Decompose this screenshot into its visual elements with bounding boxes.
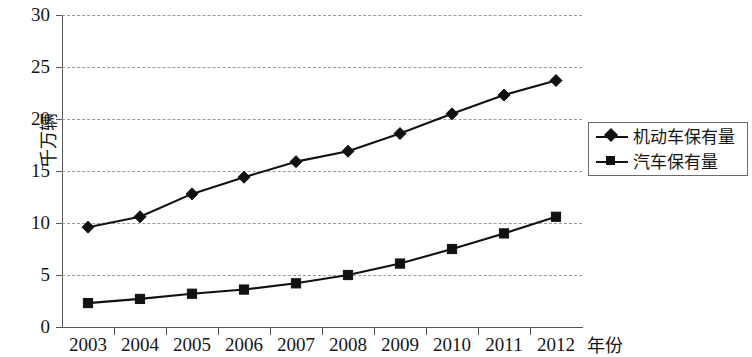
series-layer [0,0,752,357]
data-point-marker [342,145,354,157]
data-point-marker [238,171,250,183]
square-marker-icon [595,152,629,172]
data-point-marker [135,294,144,303]
data-point-marker [447,244,456,253]
legend-item-cars[interactable]: 汽车保有量 [595,149,718,175]
series-line [88,217,556,303]
series-1 [82,75,562,234]
data-point-marker [394,128,406,140]
legend-item-label: 汽车保有量 [629,152,718,172]
series-2 [83,212,560,308]
data-point-marker [134,211,146,223]
data-point-marker [343,270,352,279]
data-point-marker [499,229,508,238]
data-point-marker [186,188,198,200]
data-point-marker [551,212,560,221]
legend-item-motor-vehicles[interactable]: 机动车保有量 [595,124,735,150]
data-point-marker [83,298,92,307]
data-point-marker [395,259,404,268]
series-line [88,81,556,228]
data-point-marker [550,75,562,87]
data-point-marker [239,285,248,294]
line-chart: 千万辆 051015202530 20032004200520062007200… [0,0,752,357]
data-point-marker [291,279,300,288]
data-point-marker [498,89,510,101]
data-point-marker [290,156,302,168]
data-point-marker [446,108,458,120]
legend-item-label: 机动车保有量 [629,127,735,147]
data-point-marker [187,289,196,298]
data-point-marker [82,221,94,233]
legend: 机动车保有量 汽车保有量 [588,122,748,176]
diamond-marker-icon [595,127,629,147]
